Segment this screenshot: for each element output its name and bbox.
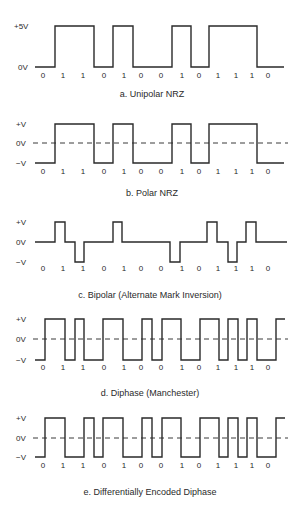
level-label-low: −V <box>16 356 27 365</box>
panel-caption: b. Polar NRZ <box>126 188 179 198</box>
bit-label: 1 <box>180 461 185 470</box>
bit-label: 1 <box>180 71 185 80</box>
bit-labels: 0110100101110 <box>41 363 271 372</box>
level-label-high: +V <box>16 120 27 129</box>
bit-label: 0 <box>266 461 271 470</box>
panel-unipolar-nrz: +5V 0V 0110100101110 a. Unipolar NRZ <box>14 22 284 99</box>
bit-label: 0 <box>266 264 271 273</box>
bit-label: 1 <box>61 71 66 80</box>
bit-label: 0 <box>266 167 271 176</box>
bit-label: 1 <box>81 71 86 80</box>
bit-label: 1 <box>180 264 185 273</box>
bit-label: 1 <box>122 264 127 273</box>
bit-label: 0 <box>159 71 164 80</box>
panel-polar-nrz: +V 0V −V 0110100101110 b. Polar NRZ <box>16 120 288 198</box>
panel-diphase-manchester: +V 0V −V 0110100101110 d. Diphase (Manch… <box>16 315 288 398</box>
bit-label: 1 <box>81 461 86 470</box>
bit-label: 1 <box>250 264 255 273</box>
bit-label: 0 <box>102 461 107 470</box>
bit-label: 1 <box>180 363 185 372</box>
bit-label: 1 <box>61 264 66 273</box>
level-label-high: +V <box>16 315 27 324</box>
bit-label: 1 <box>250 167 255 176</box>
bit-label: 0 <box>266 71 271 80</box>
waveform <box>35 26 284 67</box>
panel-differential-diphase: +V 0V −V 0110100101110 e. Differentially… <box>16 414 288 497</box>
panel-bipolar-ami: +V 0V −V 0110100101110 c. Bipolar (Alter… <box>16 218 287 300</box>
bit-label: 0 <box>139 167 144 176</box>
signal-encoding-diagram: +5V 0V 0110100101110 a. Unipolar NRZ +V … <box>0 0 303 508</box>
bit-label: 0 <box>102 363 107 372</box>
bit-label: 0 <box>197 264 202 273</box>
panel-caption: c. Bipolar (Alternate Mark Inversion) <box>78 290 222 300</box>
level-label-zero: 0V <box>18 63 28 72</box>
bit-label: 1 <box>122 71 127 80</box>
bit-label: 1 <box>122 461 127 470</box>
bit-label: 1 <box>180 167 185 176</box>
bit-label: 1 <box>250 71 255 80</box>
bit-label: 1 <box>122 167 127 176</box>
bit-label: 1 <box>216 167 221 176</box>
bit-label: 0 <box>159 461 164 470</box>
bit-label: 1 <box>234 167 239 176</box>
level-label-low: −V <box>16 159 27 168</box>
bit-labels: 0110100101110 <box>41 264 271 273</box>
bit-label: 0 <box>159 167 164 176</box>
bit-label: 1 <box>234 264 239 273</box>
bit-label: 0 <box>41 363 46 372</box>
level-label-high: +V <box>16 414 27 423</box>
level-label-zero: 0V <box>16 238 26 247</box>
bit-label: 1 <box>234 461 239 470</box>
panel-caption: a. Unipolar NRZ <box>120 89 185 99</box>
bit-label: 0 <box>197 167 202 176</box>
bit-label: 1 <box>250 461 255 470</box>
level-label-high: +V <box>16 218 27 227</box>
bit-label: 0 <box>41 264 46 273</box>
bit-label: 1 <box>81 363 86 372</box>
bit-label: 0 <box>197 461 202 470</box>
bit-label: 0 <box>102 71 107 80</box>
level-label-low: −V <box>16 258 27 267</box>
bit-label: 1 <box>216 71 221 80</box>
bit-label: 1 <box>216 264 221 273</box>
bit-label: 0 <box>197 71 202 80</box>
bit-label: 1 <box>216 461 221 470</box>
bit-label: 1 <box>61 363 66 372</box>
bit-labels: 0110100101110 <box>41 461 271 470</box>
bit-label: 0 <box>102 264 107 273</box>
level-label-zero: 0V <box>16 139 26 148</box>
bit-label: 1 <box>61 461 66 470</box>
bit-label: 1 <box>234 363 239 372</box>
bit-label: 1 <box>81 264 86 273</box>
bit-label: 0 <box>159 264 164 273</box>
bit-label: 0 <box>197 363 202 372</box>
bit-label: 1 <box>61 167 66 176</box>
bit-label: 0 <box>266 363 271 372</box>
bit-label: 1 <box>122 363 127 372</box>
bit-label: 0 <box>159 363 164 372</box>
level-label-low: −V <box>16 453 27 462</box>
bit-label: 0 <box>139 264 144 273</box>
bit-label: 0 <box>41 461 46 470</box>
panel-caption: d. Diphase (Manchester) <box>101 388 200 398</box>
waveform <box>35 222 287 262</box>
bit-label: 1 <box>250 363 255 372</box>
level-label-zero: 0V <box>16 434 26 443</box>
bit-label: 0 <box>41 71 46 80</box>
panel-caption: e. Differentially Encoded Diphase <box>84 487 217 497</box>
bit-label: 1 <box>81 167 86 176</box>
bit-labels: 0110100101110 <box>41 71 271 80</box>
level-label-high: +5V <box>14 22 29 31</box>
bit-label: 1 <box>216 363 221 372</box>
bit-labels: 0110100101110 <box>41 167 271 176</box>
bit-label: 0 <box>139 71 144 80</box>
bit-label: 0 <box>41 167 46 176</box>
bit-label: 0 <box>139 363 144 372</box>
bit-label: 0 <box>102 167 107 176</box>
level-label-zero: 0V <box>16 335 26 344</box>
bit-label: 1 <box>234 71 239 80</box>
bit-label: 0 <box>139 461 144 470</box>
